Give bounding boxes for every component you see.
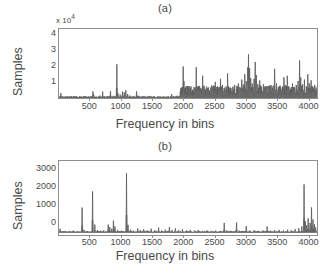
- panel-a-xtick-4000: 4000: [294, 101, 324, 111]
- panel-b-xtick-2500: 2500: [200, 237, 230, 247]
- panel-b-xtick-1500: 1500: [137, 237, 167, 247]
- panel-b-title: (b): [0, 140, 330, 152]
- panel-a-ytick-3: 3: [30, 44, 56, 54]
- panel-b-plot-area: [58, 160, 318, 236]
- panel-a-y-multiplier: x 104: [56, 13, 75, 25]
- panel-a-xtick-3000: 3000: [231, 101, 261, 111]
- panel-a-xtick-500: 500: [74, 101, 104, 111]
- panel-a-xtick-2000: 2000: [168, 101, 198, 111]
- panel-a-x-axis-label: Frequency in bins: [0, 117, 330, 131]
- figure-container: (a) x 104 Samples 4 3 2 1 500 1000 1500 …: [0, 0, 330, 273]
- panel-b-x-axis-label: Frequency in bins: [0, 249, 330, 263]
- panel-b-y-axis-label: Samples: [11, 181, 25, 230]
- panel-b-ytick-1000: 1000: [26, 199, 56, 209]
- panel-a-ytick-4: 4: [30, 28, 56, 38]
- panel-a-spectrum-plot: [59, 29, 317, 98]
- panel-b-spectrum-plot: [59, 161, 317, 235]
- panel-a-xtick-1000: 1000: [106, 101, 136, 111]
- panel-b-ytick-3000: 3000: [26, 163, 56, 173]
- panel-a-xtick-3500: 3500: [262, 101, 292, 111]
- panel-a: (a) x 104 Samples 4 3 2 1 500 1000 1500 …: [0, 0, 330, 136]
- panel-a-y-axis-label: Samples: [11, 47, 25, 96]
- panel-b-xtick-3500: 3500: [262, 237, 292, 247]
- panel-a-plot-area: [58, 28, 318, 99]
- panel-a-y-multiplier-exponent: 4: [71, 13, 75, 20]
- panel-b: (b) Samples 3000 2000 1000 0 500 1000 15…: [0, 136, 330, 273]
- panel-b-ytick-0: 0: [26, 217, 56, 227]
- panel-b-xtick-3000: 3000: [231, 237, 261, 247]
- panel-b-xtick-500: 500: [74, 237, 104, 247]
- panel-a-ytick-1: 1: [30, 76, 56, 86]
- panel-a-y-multiplier-prefix: x 10: [56, 16, 71, 25]
- panel-b-xtick-2000: 2000: [168, 237, 198, 247]
- panel-b-xtick-4000: 4000: [294, 237, 324, 247]
- panel-a-xtick-2500: 2500: [200, 101, 230, 111]
- panel-a-title: (a): [0, 2, 330, 14]
- panel-a-ytick-2: 2: [30, 60, 56, 70]
- panel-b-xtick-1000: 1000: [106, 237, 136, 247]
- panel-b-ytick-2000: 2000: [26, 181, 56, 191]
- panel-a-xtick-1500: 1500: [137, 101, 167, 111]
